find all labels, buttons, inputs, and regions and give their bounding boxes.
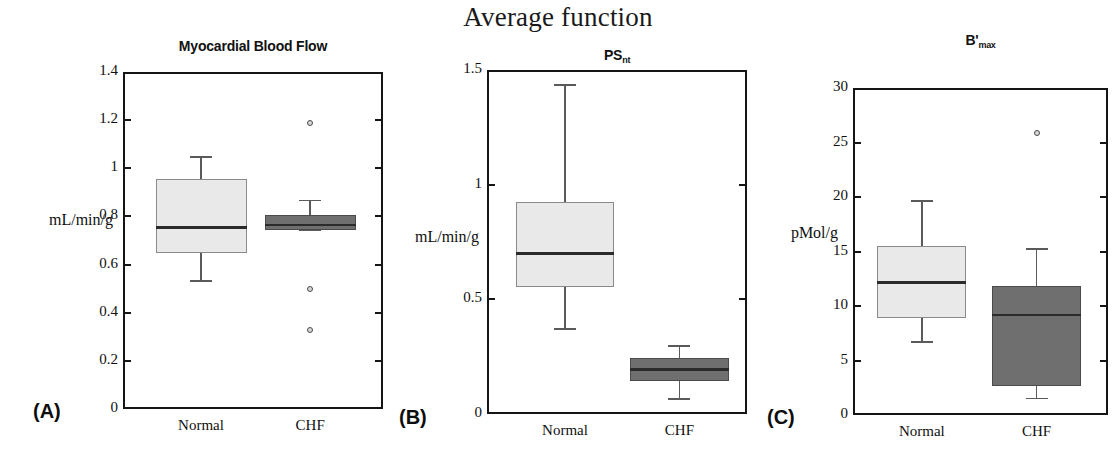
whisker-cap-upper (299, 200, 321, 202)
whisker-lower (1036, 386, 1038, 398)
whisker-cap-lower (1026, 398, 1048, 400)
whisker-cap-lower (190, 280, 212, 282)
whisker-upper (564, 84, 566, 202)
y-tick-label: 10 (816, 296, 848, 313)
panel-title-c: B'max (853, 32, 1108, 50)
y-tick-label: 20 (816, 187, 848, 204)
y-tick-label: 1 (84, 158, 118, 175)
y-tick-mark (123, 215, 131, 217)
box-normal (156, 179, 247, 252)
x-tick-label-chf: CHF (255, 417, 365, 434)
panel-title-b: PSnt (487, 47, 747, 65)
y-tick-mark (853, 196, 861, 198)
whisker-cap-lower (299, 230, 321, 232)
y-tick-mark (375, 360, 383, 362)
y-axis-label-c: pMol/g (742, 224, 838, 242)
y-tick-label: 0.6 (84, 255, 118, 272)
y-tick-label: 25 (816, 133, 848, 150)
median-line-chf (630, 368, 729, 371)
y-tick-mark (853, 360, 861, 362)
x-tick-label-normal: Normal (510, 422, 620, 439)
whisker-cap-upper (190, 156, 212, 158)
y-tick-label: 0.5 (448, 289, 482, 306)
panel-title-main: PS (604, 47, 622, 63)
y-tick-mark (375, 119, 383, 121)
y-tick-mark (1100, 360, 1108, 362)
median-line-chf (265, 224, 356, 227)
panel-title-subscript: nt (622, 55, 630, 65)
y-tick-mark (123, 119, 131, 121)
y-tick-mark (739, 184, 747, 186)
whisker-upper (679, 345, 681, 358)
whisker-lower (200, 253, 202, 281)
y-axis-label-a: mL/min/g (8, 211, 113, 229)
y-tick-mark (375, 167, 383, 169)
y-tick-label: 1.4 (84, 62, 118, 79)
median-line-normal (516, 252, 615, 255)
outlier-point (307, 327, 313, 333)
median-line-chf (992, 314, 1081, 317)
y-axis-label-b: mL/min/g (374, 228, 479, 246)
panel-title-main: Myocardial Blood Flow (179, 38, 327, 54)
y-tick-mark (123, 167, 131, 169)
y-tick-mark (1100, 251, 1108, 253)
y-tick-mark (375, 215, 383, 217)
x-tick-label-normal: Normal (867, 423, 977, 440)
y-tick-mark (375, 312, 383, 314)
whisker-lower (921, 318, 923, 341)
y-tick-mark (487, 184, 495, 186)
y-tick-label: 0 (448, 404, 482, 421)
whisker-cap-upper (554, 84, 576, 86)
box-chf (992, 286, 1081, 385)
y-tick-mark (739, 298, 747, 300)
y-tick-mark (1100, 196, 1108, 198)
y-tick-mark (853, 251, 861, 253)
y-tick-mark (853, 142, 861, 144)
whisker-cap-lower (911, 341, 933, 343)
panel-letter-b: (B) (399, 406, 427, 429)
outlier-point (307, 120, 313, 126)
whisker-upper (309, 200, 311, 216)
whisker-cap-upper (668, 345, 690, 347)
y-tick-mark (853, 305, 861, 307)
x-tick-label-chf: CHF (982, 423, 1092, 440)
whisker-lower (679, 381, 681, 398)
y-tick-label: 1 (448, 175, 482, 192)
y-tick-mark (375, 264, 383, 266)
figure-title: Average function (0, 2, 1116, 33)
median-line-normal (877, 281, 966, 284)
y-tick-label: 0.4 (84, 303, 118, 320)
y-tick-label: 1.2 (84, 110, 118, 127)
y-tick-label: 1.5 (448, 60, 482, 77)
y-tick-label: 5 (816, 351, 848, 368)
x-tick-label-normal: Normal (146, 417, 256, 434)
y-tick-label: 0.2 (84, 351, 118, 368)
whisker-upper (200, 156, 202, 179)
outlier-point (307, 286, 313, 292)
y-tick-label: 0 (816, 405, 848, 422)
y-tick-label: 30 (816, 78, 848, 95)
figure-canvas: Average function Myocardial Blood Flow00… (0, 0, 1116, 460)
y-tick-mark (1100, 305, 1108, 307)
y-tick-mark (123, 264, 131, 266)
whisker-upper (1036, 248, 1038, 286)
whisker-cap-lower (668, 398, 690, 400)
panel-letter-c: (C) (767, 406, 795, 429)
x-tick-label-chf: CHF (624, 422, 734, 439)
median-line-normal (156, 226, 247, 229)
whisker-lower (564, 287, 566, 328)
box-normal (516, 202, 615, 287)
panel-letter-a: (A) (33, 400, 61, 423)
y-tick-mark (123, 312, 131, 314)
y-tick-label: 0 (84, 399, 118, 416)
whisker-cap-lower (554, 328, 576, 330)
panel-title-a: Myocardial Blood Flow (123, 38, 383, 54)
whisker-cap-upper (1026, 248, 1048, 250)
y-tick-mark (123, 360, 131, 362)
whisker-upper (921, 200, 923, 246)
box-chf (265, 215, 356, 229)
y-tick-label: 15 (816, 242, 848, 259)
y-tick-mark (1100, 142, 1108, 144)
panel-title-subscript: max (978, 40, 995, 50)
panel-title-main: B' (965, 32, 978, 48)
